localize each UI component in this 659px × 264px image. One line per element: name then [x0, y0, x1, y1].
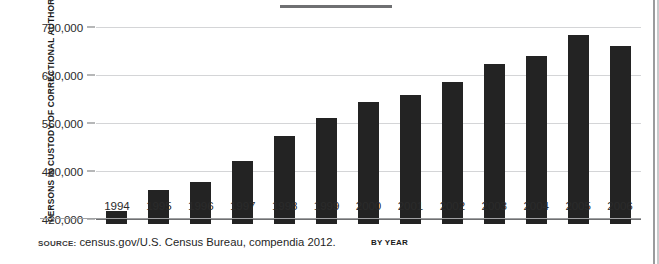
- x-tick-mark: [106, 219, 127, 224]
- x-tick-mark: [148, 219, 169, 224]
- bar: [610, 46, 631, 219]
- x-tick-mark: [358, 219, 379, 224]
- y-tick-label: 560,000: [11, 117, 83, 130]
- x-axis-caption: BY YEAR: [371, 238, 408, 247]
- y-tick-label: 490,000: [11, 165, 83, 178]
- y-tick-mark: [87, 27, 95, 28]
- x-tick-label: 2006: [593, 199, 647, 212]
- y-tick-mark: [87, 171, 95, 172]
- y-axis-title: PERSONS IN CUSTODY OF CORRECTIONAL AUTHO…: [34, 2, 68, 222]
- x-tick-mark: [610, 219, 631, 224]
- x-tick-mark: [484, 219, 505, 224]
- y-tick-mark: [87, 75, 95, 76]
- x-tick-mark: [190, 219, 211, 224]
- y-tick-mark: [87, 123, 95, 124]
- y-tick-label: 420,000: [11, 213, 83, 226]
- y-tick-label: 630,000: [11, 69, 83, 82]
- source-label: SOURCE:: [38, 239, 76, 248]
- bar: [526, 56, 547, 219]
- x-tick-mark: [274, 219, 295, 224]
- x-tick-mark: [442, 219, 463, 224]
- source-text: census.gov/U.S. Census Bureau, compendia…: [79, 236, 335, 248]
- plot-area: [96, 27, 641, 219]
- top-decorative-rule: [280, 5, 392, 8]
- y-tick-label: 700,000: [11, 21, 83, 34]
- chart-figure: PERSONS IN CUSTODY OF CORRECTIONAL AUTHO…: [0, 0, 659, 264]
- gridline: [96, 75, 641, 76]
- gridline: [96, 27, 641, 28]
- x-tick-mark: [526, 219, 547, 224]
- right-edge-rule: [653, 0, 655, 264]
- bar: [484, 64, 505, 219]
- x-tick-mark: [568, 219, 589, 224]
- x-axis-baseline-rule: [40, 218, 641, 219]
- x-tick-mark: [400, 219, 421, 224]
- x-tick-mark: [232, 219, 253, 224]
- x-tick-mark: [316, 219, 337, 224]
- bar: [568, 35, 589, 219]
- source-line: SOURCE: census.gov/U.S. Census Bureau, c…: [38, 236, 336, 248]
